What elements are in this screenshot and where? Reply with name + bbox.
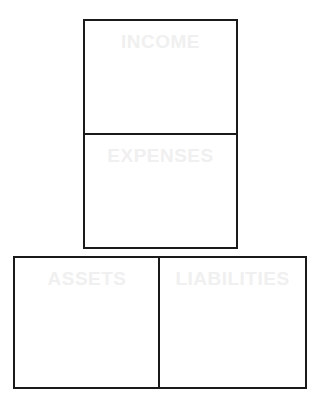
assets-label: ASSETS: [15, 268, 159, 290]
assets-box: ASSETS: [13, 256, 161, 389]
income-box: INCOME: [83, 19, 238, 135]
liabilities-label: LIABILITIES: [160, 268, 305, 290]
income-label: INCOME: [85, 31, 236, 53]
expenses-box: EXPENSES: [83, 133, 238, 249]
liabilities-box: LIABILITIES: [158, 256, 307, 389]
expenses-label: EXPENSES: [85, 145, 236, 167]
